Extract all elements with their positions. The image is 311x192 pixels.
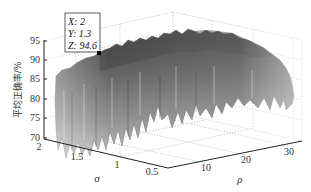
z-tick-95: 95 bbox=[30, 35, 40, 46]
sigma-tick-1: 1 bbox=[115, 159, 120, 170]
z-tick-90: 90 bbox=[30, 54, 40, 65]
datatip-z: Z: 94.6 bbox=[68, 40, 97, 51]
sigma-axis-label: σ bbox=[94, 172, 100, 184]
rho-tick-10: 10 bbox=[201, 162, 211, 173]
rho-axis-label: ρ bbox=[236, 173, 242, 185]
rho-tick-20: 20 bbox=[241, 154, 251, 165]
rho-tick-30: 30 bbox=[284, 146, 294, 157]
datatip-y: Y: 1.3 bbox=[68, 28, 91, 39]
datatip[interactable]: X: 2 Y: 1.3 Z: 94.6 bbox=[65, 13, 101, 55]
z-tick-labels: 95 90 85 80 75 70 bbox=[30, 35, 40, 143]
sigma-tick-1.5: 1.5 bbox=[71, 151, 84, 162]
z-tick-85: 85 bbox=[30, 73, 40, 84]
datatip-marker[interactable] bbox=[97, 51, 101, 55]
z-tick-80: 80 bbox=[30, 93, 40, 104]
sigma-tick-0.5: 0.5 bbox=[146, 166, 159, 177]
sigma-tick-2: 2 bbox=[37, 141, 42, 152]
z-tick-75: 75 bbox=[30, 112, 40, 123]
z-axis-label: 平均正确率/% bbox=[12, 61, 23, 118]
datatip-x: X: 2 bbox=[67, 16, 85, 27]
surface-chart: 95 90 85 80 75 70 平均正确率/% 2 1.5 1 0.5 σ … bbox=[0, 0, 311, 192]
